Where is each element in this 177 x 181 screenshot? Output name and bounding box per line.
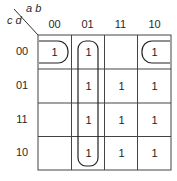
col-header-11: 11 [104,18,137,30]
cell-01-01: 1 [72,69,105,103]
cell-11-00 [38,103,71,137]
cell-01-00 [38,69,71,103]
col-header-10: 10 [138,18,171,30]
row-header-00: 00 [10,45,34,57]
cell-00-10: 1 [138,35,171,69]
cell-10-00 [38,136,71,170]
cell-10-01: 1 [72,136,105,170]
col-header-01: 01 [71,18,104,30]
cell-11-11: 1 [105,103,138,137]
cell-10-10: 1 [138,136,171,170]
cell-11-10: 1 [138,103,171,137]
row-variable-label: c d [7,14,22,26]
cell-01-11: 1 [105,69,138,103]
row-header-10: 10 [10,146,34,158]
cell-00-11 [105,35,138,69]
cell-00-00: 1 [38,35,71,69]
col-variable-label: a b [26,2,41,14]
col-header-00: 00 [38,18,71,30]
row-header-11: 11 [10,113,34,125]
cell-01-10: 1 [138,69,171,103]
row-header-01: 01 [10,79,34,91]
cell-10-11: 1 [105,136,138,170]
cell-11-01: 1 [72,103,105,137]
cell-00-01: 1 [72,35,105,69]
